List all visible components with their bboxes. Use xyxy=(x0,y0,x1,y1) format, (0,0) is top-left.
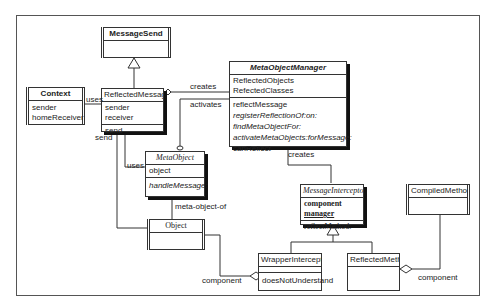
method: registerReflectionOf:on: xyxy=(233,110,343,121)
label-creates: creates xyxy=(190,82,216,91)
class-name: Object xyxy=(150,220,202,233)
method: doesNotUnderstand xyxy=(262,276,318,286)
attribute: homeReceiver xyxy=(32,113,79,123)
label-uses-meta: uses xyxy=(127,161,144,170)
label-uses-context: uses xyxy=(86,95,103,104)
class-meta-object-manager[interactable]: MetaObjectManager ReflectedObjects Refec… xyxy=(229,61,347,147)
label-creates-interceptor: creates xyxy=(288,150,314,159)
method: handleMessage: xyxy=(149,181,201,191)
class-name: ReflectedMethod xyxy=(348,254,399,267)
class-name: WrapperInterceptor xyxy=(259,254,321,267)
class-wrapper-interceptor[interactable]: WrapperInterceptor doesNotUnderstand xyxy=(258,253,322,291)
class-reflected-message[interactable]: ReflectedMessage sender receiver send xyxy=(101,88,164,132)
class-compiled-method[interactable]: CompiledMethod xyxy=(406,184,470,215)
attribute: sender xyxy=(105,103,160,113)
class-message-send[interactable]: MessageSend xyxy=(101,27,171,58)
attribute: receiver xyxy=(105,113,160,123)
class-name: Context xyxy=(29,88,82,101)
class-name: MetaObjectManager xyxy=(230,62,346,75)
class-name: CompiledMethod xyxy=(409,185,467,198)
class-name: ReflectedMessage xyxy=(102,89,163,102)
method: send xyxy=(105,126,160,136)
attribute: manager xyxy=(304,209,360,219)
class-context[interactable]: Context sender homeReceiver xyxy=(26,87,85,125)
attribute: component xyxy=(304,199,360,209)
label-activates: activates xyxy=(190,100,222,109)
class-name: MessageSend xyxy=(104,28,168,41)
class-object[interactable]: Object xyxy=(147,219,205,250)
method: findMetaObjectFor: xyxy=(233,121,343,132)
class-meta-object[interactable]: MetaObject object handleMessage: xyxy=(145,151,205,197)
class-name: MessageInterceptor xyxy=(301,185,363,198)
class-message-interceptor[interactable]: MessageInterceptor component manager ref… xyxy=(300,184,364,225)
method: activateMetaObjects:forMessage: xyxy=(233,132,343,143)
label-component-wrapper: component xyxy=(202,276,242,285)
attribute: RefectedClasses xyxy=(233,86,343,96)
attribute: ReflectedObjects xyxy=(233,76,343,86)
label-component-method: component xyxy=(418,273,458,282)
label-meta-object-of: meta-object-of xyxy=(175,202,226,211)
attribute: sender xyxy=(32,103,79,113)
class-reflected-method[interactable]: ReflectedMethod xyxy=(347,253,400,291)
class-name: MetaObject xyxy=(146,152,204,165)
method: reflectMessage xyxy=(233,99,343,110)
label-send: send xyxy=(95,133,112,142)
attribute: object xyxy=(149,166,201,176)
method: reflectMethod: xyxy=(304,222,360,232)
